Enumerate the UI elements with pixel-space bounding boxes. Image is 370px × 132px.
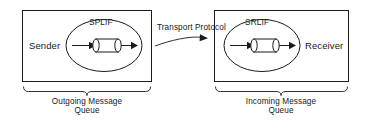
incoming-queue-brace [216, 87, 348, 96]
srlif-interface-label: SRLIF [245, 19, 269, 28]
incoming-queue-label: Incoming Message Queue [231, 98, 331, 115]
diagram-canvas: Sender SPLIF Transport Protocol SRLIF Re… [0, 0, 370, 132]
outgoing-queue-label: Outgoing Message Queue [37, 98, 137, 115]
sender-label: Sender [29, 41, 60, 51]
srlif-capsule-right-cap [273, 39, 279, 52]
transport-protocol-label-line1: Transport [157, 23, 193, 32]
transport-protocol-arrow-curve [155, 37, 203, 46]
outgoing-queue-label-line2: Queue [37, 107, 137, 116]
transport-protocol-label: Transport Protocol [157, 24, 205, 33]
incoming-queue-label-line2: Queue [231, 107, 331, 116]
srlif-capsule-left-cap [251, 39, 257, 52]
outgoing-queue-brace [24, 87, 151, 96]
splif-capsule-right-cap [115, 39, 121, 52]
transport-protocol-arrow-head [200, 34, 208, 41]
receiver-label: Receiver [305, 41, 343, 51]
splif-interface-label: SPLIF [89, 19, 113, 28]
transport-protocol-label-line2: Protocol [195, 23, 226, 32]
splif-capsule-left-cap [93, 39, 99, 52]
